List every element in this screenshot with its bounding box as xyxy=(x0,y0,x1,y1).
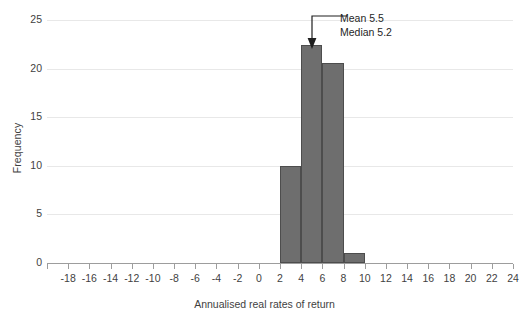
x-tick-mark xyxy=(344,264,345,269)
annotation-median-label: Median 5.2 xyxy=(340,25,392,40)
x-tick-mark xyxy=(111,264,112,269)
x-tick-label: 24 xyxy=(493,272,529,285)
x-tick-mark xyxy=(407,264,408,269)
x-tick-mark xyxy=(153,264,154,269)
x-tick-mark xyxy=(301,264,302,269)
histogram-bar xyxy=(301,45,322,263)
annotation-mean-label: Mean 5.5 xyxy=(340,11,384,26)
y-tick-label: 0 xyxy=(16,257,42,268)
x-tick-mark xyxy=(259,264,260,269)
y-tick-label: 20 xyxy=(16,63,42,74)
y-axis-ticks: 0510152025 xyxy=(14,0,42,322)
x-tick-mark xyxy=(365,264,366,269)
x-tick-mark xyxy=(174,264,175,269)
x-tick-mark xyxy=(238,264,239,269)
histogram-bar xyxy=(322,63,343,263)
x-tick-mark xyxy=(428,264,429,269)
x-tick-mark xyxy=(195,264,196,269)
x-tick-mark xyxy=(386,264,387,269)
x-tick-mark xyxy=(47,264,48,269)
x-tick-mark xyxy=(68,264,69,269)
histogram-chart: Frequency 0510152025 -18-16-14-12-10-8-6… xyxy=(0,0,529,322)
x-tick-mark xyxy=(449,264,450,269)
x-tick-mark xyxy=(322,264,323,269)
histogram-bar xyxy=(344,253,365,263)
gridline xyxy=(47,20,513,21)
x-axis-title: Annualised real rates of return xyxy=(0,298,529,310)
x-tick-mark xyxy=(89,264,90,269)
x-tick-mark xyxy=(513,264,514,269)
gridline xyxy=(47,117,513,118)
x-tick-mark xyxy=(216,264,217,269)
y-tick-label: 10 xyxy=(16,160,42,171)
x-tick-mark xyxy=(492,264,493,269)
plot-area xyxy=(47,20,513,263)
x-tick-mark xyxy=(471,264,472,269)
y-tick-label: 25 xyxy=(16,14,42,25)
gridline xyxy=(47,69,513,70)
histogram-bar xyxy=(280,166,301,263)
x-tick-mark xyxy=(132,264,133,269)
y-tick-label: 5 xyxy=(16,208,42,219)
y-tick-label: 15 xyxy=(16,111,42,122)
x-tick-mark xyxy=(280,264,281,269)
